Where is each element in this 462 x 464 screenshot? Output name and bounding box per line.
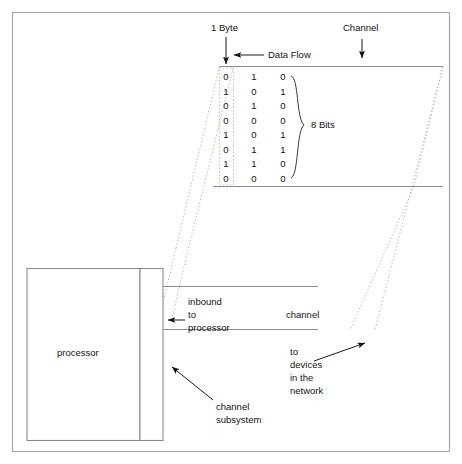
one-byte-label: 1 Byte <box>211 22 238 33</box>
channel-subsystem-strip <box>140 269 163 441</box>
bit-cell: 0 <box>223 71 228 82</box>
bit-cell: 0 <box>251 173 256 184</box>
channel-top-annotation: Channel <box>343 22 378 58</box>
bit-cell: 0 <box>223 100 228 111</box>
bit-cell: 1 <box>280 129 285 140</box>
processor-group: processor <box>27 269 163 441</box>
depth-line-right-inner <box>350 187 414 331</box>
bit-cell: 0 <box>280 100 285 111</box>
diagram-canvas: 0 1 0 1 0 1 0 1 0 0 0 0 1 0 1 0 1 1 1 1 … <box>0 0 462 464</box>
channel-subsystem-arrow-icon <box>172 367 213 400</box>
data-flow-label: Data Flow <box>268 49 311 60</box>
channel-diagram-svg: 0 1 0 1 0 1 0 1 0 0 0 0 1 0 1 0 1 1 1 1 … <box>0 0 462 464</box>
to-devices-arrow-icon <box>314 343 365 361</box>
depth-line-byte-right-lower <box>172 250 188 318</box>
one-byte-annotation: 1 Byte <box>211 22 238 64</box>
byte-matrix: 0 1 0 1 0 1 0 1 0 0 0 0 1 0 1 0 1 1 1 1 … <box>220 68 286 185</box>
channel-subsystem-annotation: channel subsystem <box>172 367 261 425</box>
inbound-label-line2: to <box>188 309 196 320</box>
depth-line-right-outer <box>375 67 443 331</box>
bit-cell: 1 <box>280 86 285 97</box>
bit-cell: 1 <box>251 71 256 82</box>
bit-cell: 1 <box>280 144 285 155</box>
bit-cell: 0 <box>280 158 285 169</box>
to-devices-annotation: to devices in the network <box>290 343 365 396</box>
bit-cell: 0 <box>223 173 228 184</box>
devices-label-line4: network <box>290 385 324 396</box>
bit-cell: 0 <box>280 173 285 184</box>
perspective-depth-lines <box>160 67 443 331</box>
devices-label-line3: in the <box>290 372 313 383</box>
bit-cell: 1 <box>251 158 256 169</box>
processor-label: processor <box>57 347 99 358</box>
inbound-to-processor-annotation: inbound to processor <box>168 296 230 333</box>
bit-cell: 0 <box>251 115 256 126</box>
bit-cell: 0 <box>280 115 285 126</box>
bit-cell: 0 <box>251 86 256 97</box>
bit-cell: 1 <box>251 100 256 111</box>
bit-cell: 0 <box>223 115 228 126</box>
depth-line-byte-left-upper <box>176 67 220 249</box>
devices-label-line2: devices <box>290 359 322 370</box>
bit-cell: 1 <box>223 86 228 97</box>
inbound-label-line3: processor <box>188 322 230 333</box>
bit-cell: 1 <box>223 158 228 169</box>
bit-cell: 0 <box>251 129 256 140</box>
inbound-label-line1: inbound <box>188 296 222 307</box>
eight-bits-brace-group: 8 Bits <box>291 76 335 178</box>
channel-top-label: Channel <box>343 22 378 33</box>
subsystem-label-line1: channel <box>216 401 249 412</box>
bit-cell: 0 <box>223 144 228 155</box>
devices-label-line1: to <box>290 346 298 357</box>
data-flow-annotation: Data Flow <box>234 49 311 60</box>
channel-mid-label: channel <box>286 309 319 320</box>
bit-cell: 0 <box>280 71 285 82</box>
eight-bits-label: 8 Bits <box>311 119 335 130</box>
curly-brace-icon <box>291 76 304 178</box>
bit-cell: 1 <box>251 144 256 155</box>
subsystem-label-line2: subsystem <box>216 414 261 425</box>
bit-cell: 1 <box>223 129 228 140</box>
